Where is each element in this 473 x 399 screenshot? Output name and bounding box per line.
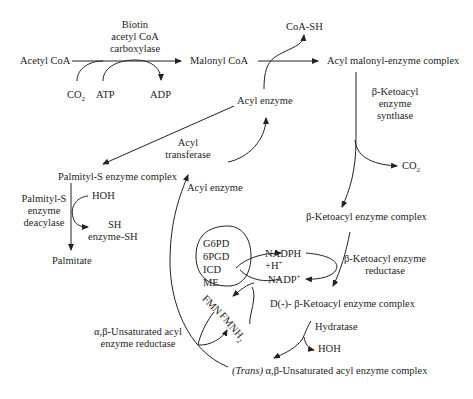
carboxylase-line-1: Biotin <box>100 19 170 31</box>
cofactor-hoh-deacylase: HOH <box>92 190 115 202</box>
source-icd: ICD <box>203 263 229 276</box>
carboxylase-line-2: acetyl CoA <box>100 31 170 43</box>
transferase-line-2: transferase <box>160 149 216 161</box>
cofactor-adp: ADP <box>150 89 171 101</box>
cofactor-coa-sh: CoA-SH <box>286 21 323 33</box>
synthase-line-3: synthase <box>360 110 430 122</box>
node-trans-unsaturated-acyl-enzyme-complex: (Trans) α,β-Unsaturated acyl enzyme comp… <box>232 365 427 377</box>
node-malonyl-coa: Malonyl CoA <box>190 55 248 67</box>
cofactor-co2-left: CO2 <box>67 89 85 101</box>
source-me: ME <box>203 276 229 289</box>
synthase-line-1: β-Ketoacyl <box>360 86 430 98</box>
deacylase-line-3: deacylase <box>20 217 68 229</box>
carboxylase-line-3: carboxylase <box>100 43 170 55</box>
cofactor-co2-right: CO2 <box>402 160 420 172</box>
enzyme-acyl-transferase: Acyl transferase <box>160 137 216 161</box>
cofactor-enzyme-sh: enzyme-SH <box>88 231 138 243</box>
source-6pgd: 6PGD <box>203 250 229 263</box>
unsat-reductase-line-2: enzyme reductase <box>88 338 188 350</box>
enzyme-acetyl-coa-carboxylase: Biotin acetyl CoA carboxylase <box>100 19 170 55</box>
synthase-line-2: enzyme <box>360 98 430 110</box>
node-acyl-malonyl-enzyme-complex: Acyl malonyl-enzyme complex <box>327 55 459 67</box>
enzyme-beta-ketoacyl-synthase: β-Ketoacyl enzyme synthase <box>360 86 430 122</box>
deacylase-line-2: enzyme <box>20 205 68 217</box>
enzyme-beta-ketoacyl-reductase: β-Ketoacyl enzyme reductase <box>340 253 430 277</box>
trans-prefix: (Trans) <box>232 365 263 376</box>
enzyme-hydratase: Hydratase <box>315 321 358 333</box>
node-palmitate: Palmitate <box>52 255 92 267</box>
node-acyl-enzyme-top: Acyl enzyme <box>237 95 293 107</box>
cofactor-nadp-plus: NADP+ <box>268 274 301 286</box>
cofactor-nadph: NADPH <box>265 248 301 260</box>
deacylase-line-1: Palmityl-S <box>20 193 68 205</box>
unsat-reductase-line-1: α,β-Unsaturated acyl <box>88 326 188 338</box>
node-acetyl-coa: Acetyl CoA <box>20 55 70 67</box>
trans-complex-text: α,β-Unsaturated acyl enzyme complex <box>263 365 428 376</box>
cofactor-hoh-hydratase: HOH <box>318 343 341 355</box>
node-acyl-enzyme-mid: Acyl enzyme <box>187 182 243 194</box>
transferase-line-1: Acyl <box>160 137 216 149</box>
enzyme-palmityl-s-deacylase: Palmityl-S enzyme deacylase <box>20 193 68 229</box>
cofactor-h-plus: +H+ <box>265 260 282 272</box>
source-g6pd: G6PD <box>203 237 229 250</box>
nadph-sources-list: G6PD 6PGD ICD ME <box>203 237 229 289</box>
cofactor-sh: SH <box>108 219 121 231</box>
reductase-line-1: β-Ketoacyl enzyme <box>340 253 430 265</box>
node-d-beta-ketoacyl-enzyme-complex: D(-)- β-Ketoacyl enzyme complex <box>270 298 415 310</box>
node-palmityl-s-enzyme-complex: Palmityl-S enzyme complex <box>58 171 177 183</box>
reductase-line-2: reductase <box>340 265 430 277</box>
enzyme-unsaturated-acyl-reductase: α,β-Unsaturated acyl enzyme reductase <box>88 326 188 350</box>
node-beta-ketoacyl-enzyme-complex: β-Ketoacyl enzyme complex <box>306 211 427 223</box>
cofactor-atp: ATP <box>96 89 115 101</box>
